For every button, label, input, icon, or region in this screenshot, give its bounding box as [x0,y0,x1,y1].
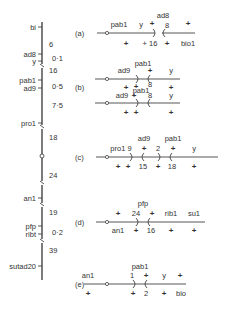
svg-text:rib1: rib1 [165,209,178,218]
svg-text:+: + [162,289,167,298]
svg-text:pab1: pab1 [132,262,149,271]
svg-text:16: 16 [147,226,155,235]
distance: 7·5 [52,101,63,110]
svg-text:+: + [150,209,155,218]
panel-label: (c) [75,153,84,162]
marker-an1: an1 [23,194,36,203]
svg-text:+: + [169,226,174,235]
svg-text:pab1: pab1 [165,134,182,143]
panel-label: (a) [75,29,85,38]
svg-text:2: 2 [156,144,160,153]
svg-text:+: + [156,162,161,171]
distance: 0·2 [52,228,63,237]
svg-text:ad9: ad9 [116,91,129,100]
svg-text:+: + [150,19,155,28]
svg-text:+: + [134,226,139,235]
panel-label: (e) [75,280,85,289]
distance: 0·1 [52,54,63,63]
svg-text:+: + [131,289,136,298]
svg-text:+: + [124,39,129,48]
svg-text:15: 15 [139,162,147,171]
svg-text:y: y [192,144,196,153]
svg-text:24: 24 [132,209,140,218]
svg-text:+: + [86,289,91,298]
svg-text:+: + [134,108,139,117]
svg-text:+: + [124,108,129,117]
svg-text:+: + [169,108,174,117]
svg-text:bio1: bio1 [181,39,195,48]
distance: 39 [49,246,57,255]
svg-text:an1: an1 [82,271,95,280]
svg-text:1: 1 [130,271,134,280]
svg-text:pro1 9: pro1 9 [110,144,131,153]
svg-text:ad9: ad9 [118,66,131,75]
panel-b: (b) pab1 ad9 + y + + 8 + pab1 ad9 + y + … [75,59,180,117]
svg-text:+ 16: + 16 [143,39,158,48]
marker-y: y [32,57,36,66]
panel-e: (e) pab1 an1 1 + y + + + 2 + bio [75,262,186,298]
svg-text:8: 8 [148,91,152,100]
svg-text:pfp: pfp [138,199,148,208]
svg-text:y: y [169,66,173,75]
marker-ad9: ad9 [23,84,36,93]
distance: 18 [49,133,57,142]
svg-text:+: + [132,91,137,100]
svg-text:2: 2 [144,289,148,298]
svg-text:an1: an1 [112,226,125,235]
panel-c: (c) ad9 pab1 pro1 9 + 2 + y + + 15 + 18 … [75,134,218,171]
svg-text:ad8: ad8 [157,11,170,20]
panel-label: (d) [75,218,85,227]
svg-text:ad9: ad9 [138,134,151,143]
genetic-map-diagram: bi ad8 y pab1 ad9 pro1 an1 pfp ribt suta… [0,0,226,311]
distance: 0·5 [52,82,63,91]
svg-text:+: + [126,162,131,171]
svg-text:+: + [171,144,176,153]
marker-sutad20: sutad20 [9,262,36,271]
svg-text:+: + [192,226,197,235]
svg-text:y: y [139,20,143,29]
distance: 6 [49,40,53,49]
svg-text:+: + [144,271,149,280]
svg-text:+: + [192,162,197,171]
marker-pro1: pro1 [21,119,36,128]
distance-labels: 6 0·1 16 0·5 7·5 18 24 19 0·2 39 [49,40,63,255]
svg-text:+: + [178,271,183,280]
panel-label: (b) [75,83,85,92]
svg-text:y: y [169,91,173,100]
marker-ribt: ribt [26,230,37,239]
centromere-icon [40,154,44,158]
marker-labels: bi ad8 y pab1 ad9 pro1 an1 pfp ribt suta… [9,23,37,271]
svg-text:8: 8 [165,21,169,30]
svg-text:+: + [165,39,170,48]
svg-text:y: y [162,271,166,280]
svg-text:18: 18 [168,162,176,171]
svg-text:+: + [148,66,153,75]
svg-text:su1: su1 [188,209,200,218]
chromosome-axis [38,22,44,280]
svg-text:bio: bio [176,289,186,298]
panel-a: (a) pab1 y ad8 + 8 + + + 16 + bio1 [75,11,195,48]
panel-d: (d) pfp + 24 + rib1 su1 an1 + 16 + + [75,199,205,235]
svg-text:+: + [186,19,191,28]
marker-bi: bi [30,23,36,32]
svg-text:+: + [116,162,121,171]
svg-text:pab1: pab1 [111,20,128,29]
svg-text:+: + [116,209,121,218]
distance: 19 [49,208,57,217]
distance: 24 [49,171,57,180]
distance: 16 [49,66,57,75]
svg-text:+: + [142,144,147,153]
